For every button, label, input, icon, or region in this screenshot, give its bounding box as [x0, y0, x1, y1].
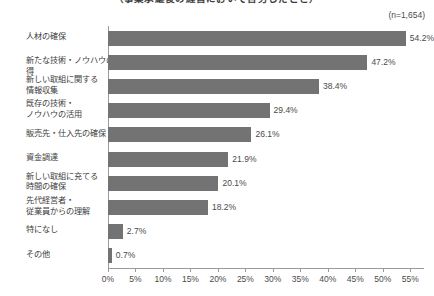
bar	[108, 248, 112, 263]
x-axis-tick	[355, 268, 356, 272]
bar	[108, 127, 251, 142]
value-label: 20.1%	[222, 178, 246, 188]
bar	[108, 176, 218, 191]
bar	[108, 31, 406, 46]
bar	[108, 224, 123, 239]
value-label: 38.4%	[323, 81, 347, 91]
bar	[108, 55, 367, 70]
sample-size-annotation: (n=1,654)	[388, 10, 425, 20]
value-label: 26.1%	[255, 129, 279, 139]
x-axis-tick	[190, 268, 191, 272]
x-axis-tick-label: 35%	[292, 274, 309, 284]
value-label: 0.7%	[116, 250, 135, 260]
chart-title: （事業承継後の経営において苦労したこと）	[0, 0, 433, 5]
value-label: 54.2%	[410, 33, 434, 43]
bar	[108, 103, 270, 118]
x-axis-tick-label: 10%	[154, 274, 171, 284]
x-axis-tick	[273, 268, 274, 272]
value-label: 21.9%	[232, 154, 256, 164]
x-axis-tick-label: 45%	[347, 274, 364, 284]
x-axis-tick	[245, 268, 246, 272]
x-axis-tick-label: 40%	[319, 274, 336, 284]
value-label: 47.2%	[371, 57, 395, 67]
x-axis-tick	[218, 268, 219, 272]
x-axis-tick	[328, 268, 329, 272]
x-axis-tick-label: 50%	[374, 274, 391, 284]
x-axis-tick-label: 30%	[264, 274, 281, 284]
x-axis-line	[108, 268, 424, 269]
value-label: 18.2%	[212, 202, 236, 212]
x-axis-tick	[135, 268, 136, 272]
x-axis-tick-label: 25%	[237, 274, 254, 284]
x-axis-tick	[383, 268, 384, 272]
x-axis-tick-label: 15%	[182, 274, 199, 284]
x-axis-tick	[163, 268, 164, 272]
bar	[108, 152, 228, 167]
value-label: 29.4%	[274, 105, 298, 115]
x-axis-tick-label: 20%	[209, 274, 226, 284]
bar	[108, 200, 208, 215]
x-axis-tick-label: 55%	[402, 274, 419, 284]
x-axis-tick	[300, 268, 301, 272]
x-axis-tick-label: 5%	[129, 274, 141, 284]
x-axis-tick-label: 0%	[102, 274, 114, 284]
bar	[108, 79, 319, 94]
value-label: 2.7%	[127, 226, 146, 236]
x-axis-tick	[108, 268, 109, 272]
x-axis-tick	[410, 268, 411, 272]
